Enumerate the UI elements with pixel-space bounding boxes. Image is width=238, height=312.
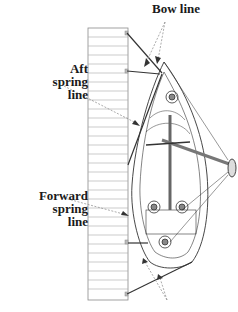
forward-spring-line-label-3: line bbox=[39, 215, 88, 228]
docking-diagram bbox=[0, 0, 238, 312]
outboard-motor bbox=[228, 159, 236, 177]
bow-line-label: Bow line bbox=[152, 2, 200, 15]
forward-spring-line-label: Forward spring line bbox=[39, 189, 88, 228]
dock bbox=[88, 28, 128, 300]
bow-line-2 bbox=[127, 71, 160, 74]
sailboat bbox=[132, 62, 236, 268]
aft-spring-line-label-3: line bbox=[53, 88, 88, 101]
aft-spring-line-label: Aft spring line bbox=[53, 62, 88, 101]
